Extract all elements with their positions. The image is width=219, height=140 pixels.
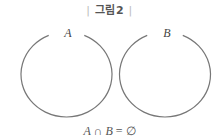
set-a-circle — [21, 35, 112, 117]
set-b-label: B — [163, 26, 171, 40]
venn-diagram: A B — [0, 0, 219, 140]
set-b-circle — [120, 35, 211, 117]
formula-intersection: ∩ — [91, 124, 106, 138]
set-a-label: A — [63, 26, 72, 40]
formula-set-b: B — [105, 124, 112, 138]
disjoint-formula: A ∩ B = ∅ — [0, 124, 219, 139]
formula-empty-set: = ∅ — [113, 124, 136, 138]
formula-set-a: A — [83, 124, 90, 138]
